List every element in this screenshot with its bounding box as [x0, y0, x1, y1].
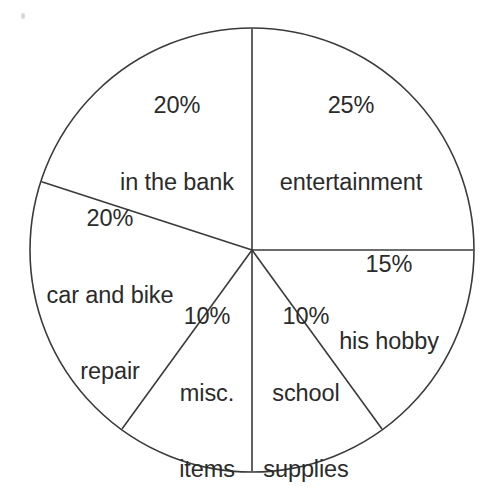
scan-speck-artifact [21, 13, 25, 19]
pie-chart-svg [0, 0, 502, 487]
pie-chart-figure: 25% entertainment 20% in the bank 20% ca… [0, 0, 502, 487]
